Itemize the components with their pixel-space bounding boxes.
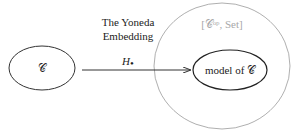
yoneda-diagram: [𝒞ᵒᵖ, Set] 𝒞 model of 𝒞 H• The Yoneda Em… (0, 0, 300, 137)
title-line-2: Embedding (103, 30, 154, 42)
arrow-label-subscript: • (130, 57, 134, 69)
category-c-label: 𝒞 (38, 62, 47, 74)
model-of-c-label: model of 𝒞 (205, 64, 256, 76)
title-line-1: The Yoneda (102, 16, 155, 28)
arrow-label: H• (121, 55, 134, 69)
presheaf-category-label: [𝒞ᵒᵖ, Set] (201, 18, 242, 30)
